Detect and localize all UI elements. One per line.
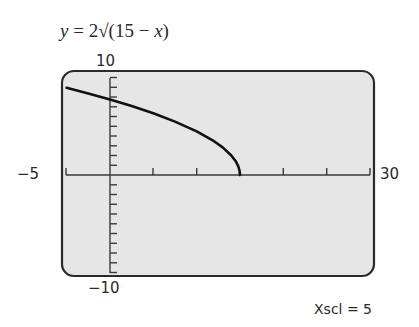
graph-screen <box>0 0 419 327</box>
